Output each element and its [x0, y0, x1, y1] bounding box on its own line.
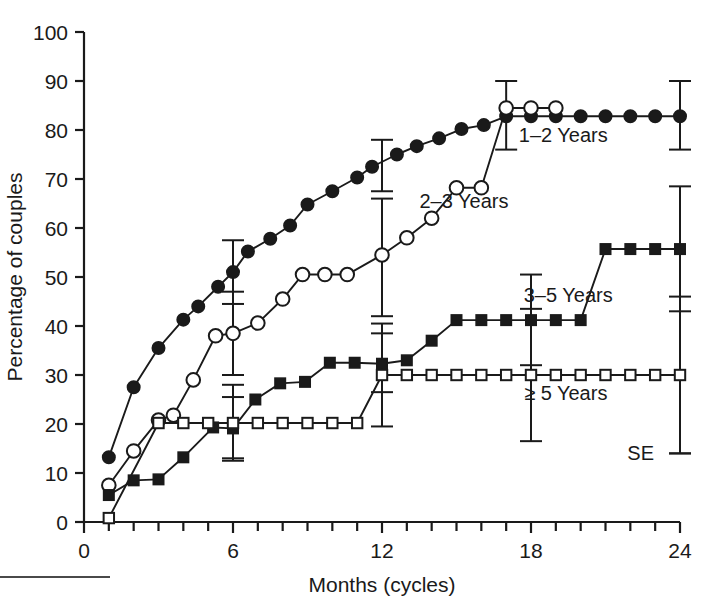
marker-open-square — [178, 418, 188, 428]
marker-open-circle — [127, 444, 141, 458]
marker-filled-square — [551, 315, 561, 325]
marker-open-circle — [524, 101, 538, 115]
y-tick-label: 50 — [45, 266, 68, 289]
marker-filled-circle — [192, 300, 204, 312]
marker-open-square — [153, 418, 163, 428]
y-tick-label: 0 — [56, 511, 68, 534]
marker-filled-square — [600, 244, 610, 254]
marker-open-square — [327, 418, 337, 428]
marker-open-square — [451, 370, 461, 380]
marker-filled-circle — [455, 123, 467, 135]
marker-open-square — [302, 418, 312, 428]
marker-open-square — [501, 370, 511, 380]
marker-open-square — [650, 370, 660, 380]
marker-open-circle — [499, 101, 513, 115]
marker-filled-square — [104, 490, 114, 500]
marker-open-circle — [318, 268, 332, 282]
marker-filled-square — [275, 378, 285, 388]
series-annotation-1: 1–2 Years — [519, 124, 608, 146]
marker-open-square — [253, 418, 263, 428]
marker-filled-circle — [152, 342, 164, 354]
marker-filled-circle — [284, 219, 296, 231]
marker-open-circle — [276, 292, 290, 306]
marker-filled-circle — [177, 313, 189, 325]
y-tick-label: 30 — [45, 364, 68, 387]
marker-filled-circle — [351, 171, 363, 183]
marker-open-square — [104, 513, 114, 523]
marker-open-square — [352, 418, 362, 428]
y-tick-label: 10 — [45, 462, 68, 485]
marker-filled-circle — [574, 110, 586, 122]
marker-open-circle — [425, 211, 439, 225]
marker-filled-square — [349, 358, 359, 368]
marker-filled-circle — [366, 161, 378, 173]
marker-filled-square — [325, 358, 335, 368]
marker-filled-circle — [649, 110, 661, 122]
marker-filled-square — [501, 315, 511, 325]
series-annotation-4: ≥ 5 Years — [524, 382, 607, 404]
footer-rule — [0, 576, 110, 578]
y-tick-label: 80 — [45, 119, 68, 142]
marker-filled-square — [153, 474, 163, 484]
marker-filled-square — [650, 244, 660, 254]
marker-open-circle — [400, 231, 414, 245]
x-tick-label: 12 — [370, 539, 393, 562]
y-tick-label: 90 — [45, 70, 68, 93]
marker-open-circle — [375, 248, 389, 262]
marker-open-square — [203, 418, 213, 428]
figure-root: 010203040506070809010006121824Months (cy… — [0, 0, 708, 600]
y-tick-label: 40 — [45, 315, 68, 338]
marker-filled-square — [377, 359, 387, 369]
marker-filled-circle — [433, 132, 445, 144]
series-annotation-2: 2–3 Years — [419, 190, 508, 212]
marker-filled-square — [426, 336, 436, 346]
marker-open-square — [526, 370, 536, 380]
marker-open-circle — [549, 101, 563, 115]
marker-open-square — [377, 370, 387, 380]
marker-open-square — [402, 370, 412, 380]
marker-filled-square — [526, 315, 536, 325]
marker-open-circle — [186, 373, 200, 387]
marker-filled-circle — [599, 110, 611, 122]
marker-filled-square — [402, 355, 412, 365]
marker-open-square — [551, 370, 561, 380]
marker-filled-circle — [624, 110, 636, 122]
marker-filled-square — [300, 377, 310, 387]
marker-filled-circle — [264, 233, 276, 245]
marker-open-square — [426, 370, 436, 380]
se-label: SE — [627, 442, 654, 464]
x-tick-label: 24 — [668, 539, 692, 562]
marker-filled-square — [250, 394, 260, 404]
marker-open-circle — [209, 329, 223, 343]
marker-filled-square — [575, 315, 585, 325]
y-tick-label: 20 — [45, 413, 68, 436]
marker-open-circle — [296, 268, 310, 282]
line-chart: 010203040506070809010006121824Months (cy… — [0, 0, 708, 600]
marker-open-square — [625, 370, 635, 380]
marker-open-square — [600, 370, 610, 380]
marker-filled-circle — [326, 185, 338, 197]
marker-filled-square — [178, 452, 188, 462]
marker-filled-circle — [227, 266, 239, 278]
marker-open-circle — [226, 327, 240, 341]
marker-filled-circle — [212, 281, 224, 293]
marker-filled-circle — [301, 198, 313, 210]
marker-filled-square — [625, 244, 635, 254]
marker-filled-circle — [411, 140, 423, 152]
y-axis-title: Percentage of couples — [3, 173, 26, 382]
x-tick-label: 18 — [519, 539, 542, 562]
x-axis-title: Months (cycles) — [308, 573, 455, 596]
marker-open-square — [675, 370, 685, 380]
marker-filled-circle — [242, 245, 254, 257]
marker-open-square — [575, 370, 585, 380]
marker-filled-circle — [103, 451, 115, 463]
marker-open-square — [228, 418, 238, 428]
marker-filled-square — [451, 315, 461, 325]
marker-filled-square — [476, 315, 486, 325]
y-tick-label: 60 — [45, 217, 68, 240]
marker-open-circle — [251, 316, 265, 330]
y-tick-label: 70 — [45, 168, 68, 191]
marker-open-square — [476, 370, 486, 380]
marker-filled-circle — [478, 119, 490, 131]
marker-open-square — [277, 418, 287, 428]
